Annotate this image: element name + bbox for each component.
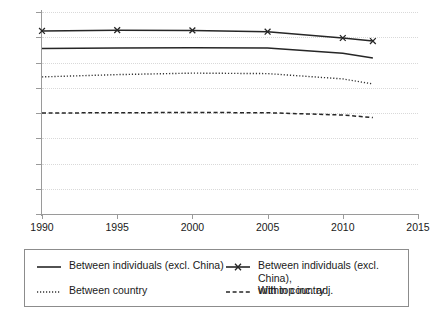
chart-legend: Between individuals (excl. China) Betwee… [24,249,409,307]
series-line [42,112,373,117]
series-line [42,73,373,84]
series-line [42,48,373,58]
chart-figure: 0.000.100.200.300.400.500.600.700.801990… [0,0,435,317]
legend-label: Within country [258,284,325,297]
legend-swatch-dashed [225,286,251,298]
legend-item-within-country: Within country [225,284,325,298]
legend-item-between-individuals: Between individuals (excl. China) [36,259,224,273]
series-line [42,30,373,41]
legend-label: Between country [69,284,147,297]
legend-swatch-dotted [36,286,62,298]
legend-label: Between individuals (excl. China) [69,259,224,272]
legend-swatch-solid [36,261,62,273]
series-layer [0,0,435,240]
legend-swatch-solid-marker [225,261,251,273]
legend-item-between-country: Between country [36,284,147,298]
